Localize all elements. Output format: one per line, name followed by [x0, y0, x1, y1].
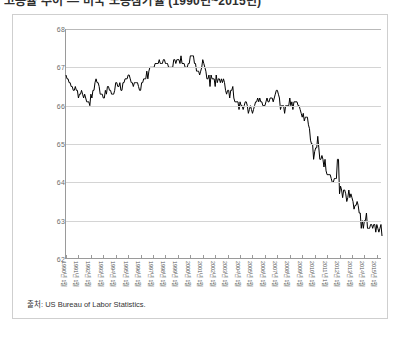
chart-card: 62636465666768 1990년 1월1991년 1월1992년 1월1…	[12, 14, 388, 319]
clipped-heading-strip: 고용률 추이 — 미국 노동참가율 (1990년~2015년)	[0, 0, 401, 12]
x-tick-17	[277, 255, 278, 258]
gridline-65	[66, 144, 381, 145]
x-tick-label-5: 1995년 1월	[122, 261, 130, 288]
x-tick-label-3: 1993년 1월	[97, 261, 105, 288]
x-tick-23	[352, 255, 353, 258]
x-tick-1	[78, 255, 79, 258]
x-tick-18	[290, 255, 291, 258]
series-path	[66, 56, 382, 236]
x-tick-label-19: 2009년 1월	[296, 261, 304, 288]
chart-area: 62636465666768 1990년 1월1991년 1월1992년 1월1…	[13, 15, 387, 275]
x-tick-label-18: 2008년 1월	[283, 261, 291, 288]
x-tick-label-8: 1998년 1월	[159, 261, 167, 288]
x-tick-label-24: 2014년 1월	[358, 261, 366, 288]
x-tick-19	[302, 255, 303, 258]
x-tick-22	[340, 255, 341, 258]
x-tick-7	[153, 255, 154, 258]
x-tick-label-9: 1999년 1월	[171, 261, 179, 288]
x-tick-label-12: 2002년 1월	[209, 261, 217, 288]
x-tick-label-22: 2012년 1월	[333, 261, 341, 288]
page-title: 고용률 추이 — 미국 노동참가율 (1990년~2015년)	[4, 0, 261, 8]
y-tick-label-62: 62	[19, 256, 65, 263]
x-tick-16	[265, 255, 266, 258]
gridline-63	[66, 221, 381, 222]
x-tick-2	[91, 255, 92, 258]
x-tick-label-10: 2000년 1월	[184, 261, 192, 288]
y-tick-label-67: 67	[19, 64, 65, 71]
x-tick-label-7: 1997년 1월	[147, 261, 155, 288]
gridline-66	[66, 106, 381, 107]
x-tick-6	[141, 255, 142, 258]
y-tick-label-66: 66	[19, 102, 65, 109]
gridline-67	[66, 67, 381, 68]
x-tick-20	[315, 255, 316, 258]
x-tick-label-21: 2011년 1월	[321, 261, 329, 287]
gridline-68	[66, 29, 381, 30]
x-tick-15	[252, 255, 253, 258]
x-tick-25	[377, 255, 378, 258]
y-axis-labels: 62636465666768	[13, 29, 65, 259]
x-tick-24	[364, 255, 365, 258]
x-tick-label-6: 1996년 1월	[134, 261, 142, 288]
y-tick-label-64: 64	[19, 179, 65, 186]
x-tick-label-25: 2015년 1월	[370, 261, 378, 288]
x-tick-label-16: 2006년 1월	[259, 261, 267, 288]
x-tick-0	[66, 255, 67, 258]
x-tick-label-17: 2007년 1월	[271, 261, 279, 288]
plot-area	[65, 29, 381, 259]
gridline-64	[66, 182, 381, 183]
screenshot-root: 고용률 추이 — 미국 노동참가율 (1990년~2015년) 62636465…	[0, 0, 401, 343]
x-tick-4	[116, 255, 117, 258]
y-tick-label-68: 68	[19, 26, 65, 33]
x-tick-label-11: 2001년 1월	[196, 261, 204, 288]
x-tick-label-14: 2004년 1월	[234, 261, 242, 288]
source-caption: 출처: US Bureau of Labor Statistics.	[27, 298, 146, 309]
x-tick-label-4: 1994년 1월	[109, 261, 117, 288]
x-tick-label-15: 2005년 1월	[246, 261, 254, 288]
y-tick-label-63: 63	[19, 217, 65, 224]
x-tick-label-20: 2010년 1월	[308, 261, 316, 288]
x-tick-13	[228, 255, 229, 258]
x-tick-5	[128, 255, 129, 258]
y-tick-label-65: 65	[19, 141, 65, 148]
x-tick-8	[165, 255, 166, 258]
x-tick-label-13: 2003년 1월	[221, 261, 229, 288]
x-tick-label-2: 1992년 1월	[84, 261, 92, 288]
x-tick-11	[203, 255, 204, 258]
x-tick-10	[190, 255, 191, 258]
x-tick-14	[240, 255, 241, 258]
x-tick-3	[103, 255, 104, 258]
x-tick-9	[178, 255, 179, 258]
x-tick-label-23: 2013년 1월	[346, 261, 354, 288]
x-tick-label-0: 1990년 1월	[60, 261, 68, 288]
x-tick-12	[215, 255, 216, 258]
x-tick-21	[327, 255, 328, 258]
x-tick-label-1: 1991년 1월	[72, 261, 80, 288]
